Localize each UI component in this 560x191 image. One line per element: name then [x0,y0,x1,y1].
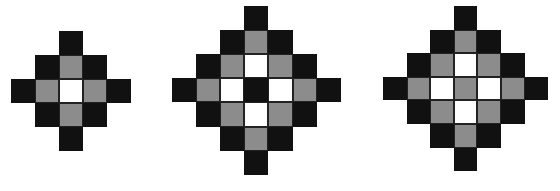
gray-cell [59,103,83,127]
black-cell [268,30,293,54]
black-cell [293,102,317,127]
gray-cell [268,102,293,127]
black-cell [59,31,83,55]
white-cell [268,78,293,102]
black-cell [430,124,454,148]
black-cell [196,102,220,127]
gray-cell [454,77,477,100]
black-cell [501,53,525,77]
black-cell [407,53,430,77]
black-cell [454,148,477,171]
white-cell [244,54,268,78]
white-cell [454,53,477,77]
black-cell [83,55,107,79]
black-cell [35,55,59,79]
black-cell [525,77,548,100]
gray-cell [268,54,293,78]
black-cell [59,127,83,151]
gray-cell [196,78,220,102]
gray-cell [220,102,244,127]
gray-cell [244,127,268,151]
gray-cell [83,79,107,103]
white-cell [59,79,83,103]
black-cell [477,124,501,148]
white-cell [220,78,244,102]
black-cell [383,77,407,100]
black-cell [454,6,477,30]
gray-cell [59,55,83,79]
gray-cell [407,77,430,100]
white-cell [430,77,454,100]
black-cell [268,127,293,151]
black-cell [107,79,131,103]
black-cell [196,54,220,78]
gray-cell [477,100,501,124]
gray-cell [454,124,477,148]
gray-cell [430,53,454,77]
black-cell [477,30,501,53]
gray-cell [477,53,501,77]
black-cell [83,103,107,127]
black-cell [11,79,35,103]
black-cell [430,30,454,53]
black-cell [317,78,341,102]
white-cell [244,102,268,127]
gray-cell [244,30,268,54]
black-cell [35,103,59,127]
black-cell [244,78,268,102]
black-cell [244,6,268,30]
gray-cell [454,30,477,53]
white-cell [454,100,477,124]
black-cell [293,54,317,78]
gray-cell [220,54,244,78]
black-cell [220,30,244,54]
black-cell [244,151,268,175]
gray-cell [35,79,59,103]
black-cell [407,100,430,124]
white-cell [477,77,501,100]
gray-cell [293,78,317,102]
gray-cell [501,77,525,100]
gray-cell [430,100,454,124]
black-cell [172,78,196,102]
black-cell [220,127,244,151]
black-cell [501,100,525,124]
